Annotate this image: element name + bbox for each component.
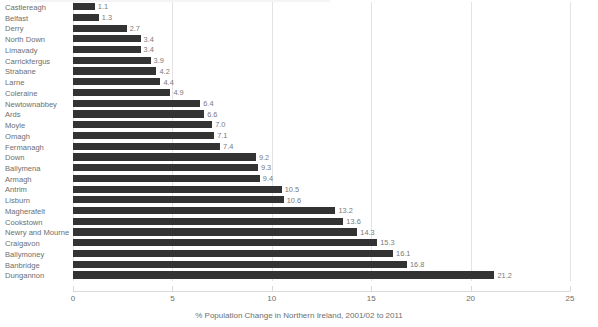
bar (73, 218, 343, 225)
bar (73, 132, 214, 139)
bar (73, 143, 220, 150)
bar (73, 239, 377, 246)
bar-value-label: 4.4 (163, 77, 173, 88)
bar (73, 164, 258, 171)
x-tick-label: 15 (367, 294, 376, 304)
bar-value-label: 13.6 (346, 216, 360, 227)
bar-value-label: 9.3 (261, 162, 271, 173)
bar-value-label: 7.1 (217, 130, 227, 141)
bar-value-label: 21.2 (497, 270, 511, 281)
bar-value-label: 13.2 (338, 205, 352, 216)
bar-row: 4.2 (73, 66, 570, 77)
bar (73, 25, 127, 32)
bar (73, 250, 393, 257)
bar-value-label: 16.8 (410, 259, 424, 270)
bar-value-label: 4.9 (173, 87, 183, 98)
bar-row: 1.1 (73, 2, 570, 13)
x-tick-label: 5 (170, 294, 174, 304)
population-change-bar-chart: CastlereaghBelfastDerryNorth DownLimavad… (0, 0, 598, 327)
bar-row: 4.4 (73, 77, 570, 88)
x-tick-label: 10 (267, 294, 276, 304)
bar-value-label: 3.4 (144, 44, 154, 55)
bar-row: 7.0 (73, 120, 570, 131)
bar-value-label: 14.3 (360, 227, 374, 238)
bar-row: 16.1 (73, 249, 570, 260)
x-tick-mark (570, 286, 571, 291)
x-tick-label: 0 (71, 294, 75, 304)
bar (73, 121, 212, 128)
bar (73, 3, 95, 10)
bar-row: 10.5 (73, 184, 570, 195)
x-tick-mark (73, 286, 74, 291)
bar-value-label: 7.4 (223, 141, 233, 152)
x-axis-line (73, 291, 570, 292)
bar (73, 14, 99, 21)
bar-row: 6.6 (73, 109, 570, 120)
bar-row: 15.3 (73, 238, 570, 249)
bar (73, 186, 282, 193)
x-tick-mark (272, 286, 273, 291)
bar-value-label: 9.4 (263, 173, 273, 184)
category-axis-labels: CastlereaghBelfastDerryNorth DownLimavad… (5, 2, 71, 281)
bar (73, 100, 200, 107)
x-tick-mark (471, 286, 472, 291)
bar-value-label: 1.1 (98, 1, 108, 12)
x-axis-title: % Population Change in Northern Ireland,… (0, 310, 598, 321)
bar-row: 9.3 (73, 163, 570, 174)
bar-value-label: 6.6 (207, 109, 217, 120)
bar-value-label: 3.4 (144, 34, 154, 45)
bar-value-label: 2.7 (130, 23, 140, 34)
gridline-25 (570, 2, 571, 281)
bar-row: 13.2 (73, 206, 570, 217)
bar-row: 7.4 (73, 142, 570, 153)
bar-row: 3.4 (73, 45, 570, 56)
plot-area: 1.11.32.73.43.43.94.24.44.96.46.67.07.17… (73, 2, 570, 281)
bar-row: 16.8 (73, 260, 570, 271)
bar-value-label: 9.2 (259, 152, 269, 163)
bar-value-label: 10.5 (285, 184, 299, 195)
bar (73, 261, 407, 268)
x-tick-label: 25 (566, 294, 575, 304)
bar (73, 196, 284, 203)
bar (73, 46, 141, 53)
bar-row: 3.9 (73, 56, 570, 67)
bar-value-label: 7.0 (215, 119, 225, 130)
bar-row: 14.3 (73, 227, 570, 238)
bar-row: 4.9 (73, 88, 570, 99)
x-tick-mark (371, 286, 372, 291)
bar-value-label: 1.3 (102, 12, 112, 23)
bar (73, 110, 204, 117)
bar-row: 6.4 (73, 99, 570, 110)
bar (73, 175, 260, 182)
bar-value-label: 6.4 (203, 98, 213, 109)
bar-row: 9.2 (73, 152, 570, 163)
bar (73, 35, 141, 42)
bar (73, 78, 160, 85)
bar (73, 207, 335, 214)
bar (73, 57, 151, 64)
bar-row: 1.3 (73, 13, 570, 24)
bar-value-label: 15.3 (380, 237, 394, 248)
bar (73, 228, 357, 235)
x-tick-mark (172, 286, 173, 291)
bar-value-label: 4.2 (159, 66, 169, 77)
bar-row: 13.6 (73, 217, 570, 228)
bar (73, 153, 256, 160)
bar (73, 89, 170, 96)
bar-row: 21.2 (73, 270, 570, 281)
bar-value-label: 3.9 (154, 55, 164, 66)
x-tick-label: 20 (466, 294, 475, 304)
bar-row: 7.1 (73, 131, 570, 142)
bar (73, 67, 156, 74)
bar (73, 271, 494, 278)
bar-row: 10.6 (73, 195, 570, 206)
bar-row: 9.4 (73, 174, 570, 185)
bar-value-label: 16.1 (396, 248, 410, 259)
bar-value-label: 10.6 (287, 195, 301, 206)
